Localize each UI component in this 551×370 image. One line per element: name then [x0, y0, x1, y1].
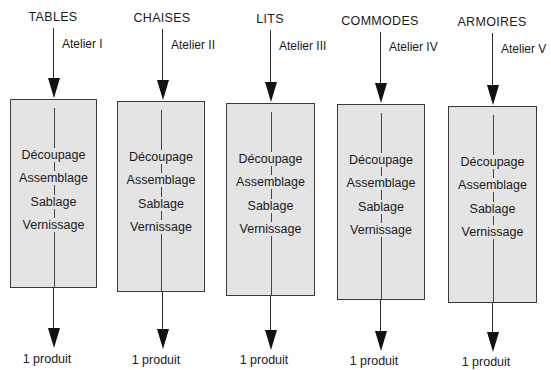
- input-arrow-line: [270, 30, 271, 83]
- arrow-down-icon: [265, 330, 277, 350]
- process-step: Découpage: [338, 153, 424, 167]
- process-step: Sablage: [227, 199, 314, 213]
- process-step: Découpage: [227, 152, 314, 166]
- arrow-down-icon: [48, 78, 60, 98]
- process-step: Vernissage: [449, 225, 536, 239]
- process-step: Découpage: [449, 155, 536, 169]
- process-step: Assemblage: [118, 173, 204, 187]
- process-step: Assemblage: [338, 176, 424, 190]
- output-label: 1 produit: [350, 354, 399, 368]
- product-type-label: COMMODES: [341, 14, 418, 28]
- output-arrow-line: [380, 300, 381, 333]
- process-step: Vernissage: [227, 222, 314, 236]
- workshop-label: Atelier V: [501, 42, 546, 56]
- arrow-down-icon: [487, 85, 499, 105]
- arrow-down-icon: [375, 331, 387, 351]
- process-step: Vernissage: [338, 223, 424, 237]
- arrow-down-icon: [48, 328, 60, 348]
- output-label: 1 produit: [132, 353, 181, 367]
- workshop-label: Atelier III: [279, 39, 326, 53]
- process-step: Sablage: [338, 200, 424, 214]
- process-step: Sablage: [449, 202, 536, 216]
- product-type-label: CHAISES: [134, 11, 191, 25]
- process-step: Sablage: [11, 195, 96, 209]
- arrow-down-icon: [157, 329, 169, 349]
- workshop-box: DécoupageAssemblageSablageVernissage: [448, 106, 537, 303]
- arrow-down-icon: [265, 82, 277, 102]
- workshop-label: Atelier II: [171, 38, 215, 52]
- process-step: Découpage: [11, 148, 96, 162]
- output-arrow-line: [162, 292, 163, 331]
- input-arrow-line: [380, 32, 381, 84]
- workshop-box: DécoupageAssemblageSablageVernissage: [337, 104, 425, 300]
- input-arrow-line: [53, 28, 54, 79]
- workshop-box: DécoupageAssemblageSablageVernissage: [10, 99, 97, 288]
- product-type-label: LITS: [256, 12, 284, 26]
- process-step: Découpage: [118, 150, 204, 164]
- input-arrow-line: [162, 29, 163, 81]
- output-arrow-line: [270, 296, 271, 332]
- workshop-box: DécoupageAssemblageSablageVernissage: [117, 101, 205, 292]
- output-label: 1 produit: [240, 353, 289, 367]
- process-step: Vernissage: [118, 220, 204, 234]
- workshop-box: DécoupageAssemblageSablageVernissage: [226, 103, 315, 296]
- workshop-label: Atelier IV: [389, 40, 438, 54]
- output-label: 1 produit: [23, 352, 72, 366]
- output-label: 1 produit: [462, 355, 511, 369]
- process-step: Vernissage: [11, 218, 96, 232]
- process-step: Assemblage: [449, 178, 536, 192]
- product-type-label: ARMOIRES: [457, 15, 526, 29]
- input-arrow-line: [492, 33, 493, 86]
- process-step: Assemblage: [11, 171, 96, 185]
- process-step: Sablage: [118, 197, 204, 211]
- arrow-down-icon: [157, 80, 169, 100]
- arrow-down-icon: [487, 332, 499, 352]
- output-arrow-line: [53, 288, 54, 330]
- output-arrow-line: [492, 303, 493, 334]
- arrow-down-icon: [375, 83, 387, 103]
- product-type-label: TABLES: [29, 10, 78, 24]
- process-step: Assemblage: [227, 175, 314, 189]
- workshop-label: Atelier I: [62, 37, 103, 51]
